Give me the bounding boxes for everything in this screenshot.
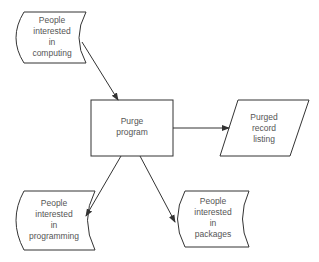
node-purge-label: Purge program bbox=[91, 116, 173, 138]
node-programming-label: People interested in programming bbox=[16, 198, 92, 242]
node-listing-label: Purged record listing bbox=[228, 112, 300, 145]
edge-purge-to-packages bbox=[140, 156, 175, 222]
edge-computing-to-purge bbox=[82, 42, 118, 100]
node-packages-label: People interested in packages bbox=[180, 196, 246, 240]
node-computing-label: People interested in computing bbox=[20, 15, 84, 59]
